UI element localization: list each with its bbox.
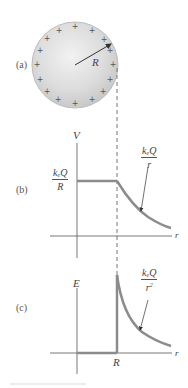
plus-charge-icon: + (99, 88, 107, 96)
radius-label: R (92, 57, 99, 68)
outside-field-label: keQ r2 (141, 268, 157, 293)
plus-charge-icon: + (54, 96, 62, 104)
plus-charge-icon: + (88, 27, 96, 35)
e-axis-label: E (73, 278, 80, 289)
r-axis-label-c: r (175, 349, 179, 358)
plus-charge-icon: + (88, 96, 96, 104)
plus-charge-icon: + (43, 88, 51, 96)
plus-charge-icon: + (106, 76, 114, 84)
panel-label-b: (b) (16, 185, 28, 195)
plus-charge-icon: + (33, 61, 41, 69)
fraction-denominator: r (147, 158, 151, 170)
fraction-denominator: r2 (146, 280, 153, 293)
r-tick-label: R (113, 357, 120, 368)
outside-potential-label: keQ r (141, 146, 157, 170)
fraction-numerator: keQ (141, 268, 157, 280)
fraction-denominator: R (57, 180, 63, 192)
plus-charge-icon: + (71, 100, 79, 108)
v-axis-label: V (73, 130, 80, 141)
panel-label-a: (a) (16, 60, 27, 70)
field-curve-pointer (140, 300, 148, 330)
plus-charge-icon: + (106, 47, 114, 55)
fraction-numerator: keQ (141, 146, 157, 158)
panel-label-c: (c) (16, 303, 27, 313)
plus-charge-icon: + (109, 61, 117, 69)
plus-charge-icon: + (100, 36, 108, 44)
r-axis-label-b: r (175, 231, 179, 240)
plus-charge-icon: + (36, 76, 44, 84)
inside-potential-label: keQ R (52, 168, 68, 192)
potential-outside-curve (117, 181, 171, 228)
plus-charge-icon: + (36, 47, 44, 55)
fraction-numerator: keQ (52, 168, 68, 180)
plus-charge-icon: + (43, 35, 51, 43)
potential-curve-pointer (141, 167, 148, 211)
plus-charge-icon: + (55, 27, 63, 35)
plus-charge-icon: + (71, 23, 79, 31)
